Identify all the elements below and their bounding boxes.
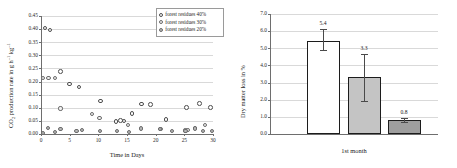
legend-label: forest residues 30%	[165, 20, 206, 25]
gridline-y	[270, 65, 438, 66]
scatter-point	[148, 102, 153, 107]
scatter-point	[46, 126, 50, 130]
y-tick-label: 7.0	[248, 11, 267, 16]
gridline-y	[270, 14, 438, 15]
x-axis-title-left: Time in Days	[41, 152, 213, 158]
y-tick-label: 1.0	[248, 114, 267, 119]
scatter-point	[77, 85, 82, 90]
legend-item: forest residues 40%	[159, 11, 220, 19]
scatter-point	[90, 112, 94, 116]
y-tick-label: 0.35	[20, 40, 38, 45]
y-tick-label: 0.45	[20, 13, 38, 18]
scatter-point	[170, 129, 174, 133]
error-bar-cap	[320, 29, 327, 30]
y-tick-mark	[268, 134, 270, 135]
bar-value-label: 0.8	[394, 110, 414, 116]
scatter-point	[46, 76, 50, 80]
legend-item: forest residues 30%	[159, 19, 220, 27]
y-tick-label: 5.0	[248, 46, 267, 51]
error-bar-cap	[401, 118, 408, 119]
scatter-point	[41, 76, 45, 80]
error-bar-cap	[361, 101, 368, 102]
y-tick-label: 0.20	[20, 79, 38, 84]
y-tick-mark	[268, 65, 270, 66]
scatter-point	[53, 76, 57, 80]
scatter-point	[67, 82, 72, 87]
y-tick-label: 0.15	[20, 92, 38, 97]
y-tick-mark	[39, 16, 41, 17]
x-tick-label: 30	[205, 138, 221, 143]
y-tick-label: 0.00	[20, 131, 38, 136]
scatter-point	[58, 127, 62, 131]
x-tick-label: 10	[90, 138, 106, 143]
x-tick-mark	[184, 134, 185, 136]
scatter-point	[208, 105, 213, 110]
scatter-point	[197, 101, 202, 106]
legend-label: forest residues 20%	[165, 27, 206, 32]
bar-value-label: 3.3	[354, 46, 374, 52]
gridline-y	[270, 31, 438, 32]
y-tick-mark	[268, 48, 270, 49]
legend-marker-open-circle-icon	[159, 13, 163, 17]
x-tick-label: 15	[119, 138, 135, 143]
error-bar-cap	[361, 54, 368, 55]
error-bar-cap	[320, 50, 327, 51]
y-tick-label: 4.0	[248, 63, 267, 68]
x-tick-label: 20	[148, 138, 164, 143]
y-tick-label: 2.0	[248, 97, 267, 102]
y-tick-label: 0.05	[20, 118, 38, 123]
error-bar-cap	[401, 122, 408, 123]
panel-co2-production-rate: CO2 production rate in g h–1 kg–1 Time i…	[0, 0, 226, 168]
x-tick-mark	[127, 134, 128, 136]
legend-label: forest residues 40%	[165, 12, 206, 17]
scatter-point	[58, 69, 63, 74]
scatter-point	[74, 129, 78, 133]
legend-marker-light-circle-icon	[159, 20, 163, 24]
y-tick-mark	[39, 121, 41, 122]
x-tick-label: 25	[176, 138, 192, 143]
x-axis-line-right	[270, 134, 438, 135]
gridline-y	[41, 121, 213, 122]
gridline-y	[41, 95, 213, 96]
y-tick-label: 0.10	[20, 105, 38, 110]
chart-legend-left: forest residues 40% forest residues 30% …	[156, 8, 224, 37]
y-axis-title-right: Dry matter loss in %	[240, 65, 246, 118]
y-tick-label: 0.40	[20, 26, 38, 31]
scatter-point	[48, 28, 53, 33]
scatter-point	[203, 123, 207, 127]
scatter-point	[126, 123, 130, 127]
scatter-point	[184, 105, 189, 110]
scatter-point	[98, 99, 103, 104]
y-tick-mark	[268, 117, 270, 118]
y-tick-mark	[268, 31, 270, 32]
error-bar	[364, 54, 365, 100]
y-tick-label: 0.30	[20, 53, 38, 58]
y-tick-mark	[39, 95, 41, 96]
x-tick-mark	[213, 134, 214, 136]
x-tick-label: 0	[33, 138, 49, 143]
scatter-point	[130, 111, 135, 116]
y-tick-mark	[39, 29, 41, 30]
scatter-point	[139, 126, 143, 130]
y-tick-mark	[268, 100, 270, 101]
y-tick-mark	[268, 14, 270, 15]
y-tick-mark	[39, 55, 41, 56]
y-tick-label: 0.0	[248, 131, 267, 136]
scatter-point	[201, 129, 205, 133]
y-axis-line-right	[270, 14, 271, 134]
scatter-point	[98, 129, 102, 133]
two-panel-figure: CO2 production rate in g h–1 kg–1 Time i…	[0, 0, 457, 168]
y-tick-label: 0.25	[20, 66, 38, 71]
x-tick-mark	[156, 134, 157, 136]
bar-value-label: 5.4	[313, 21, 333, 27]
scatter-point	[164, 117, 169, 122]
scatter-point	[97, 116, 101, 120]
y-tick-label: 3.0	[248, 80, 267, 85]
legend-item: forest residues 20%	[159, 26, 220, 34]
x-tick-label: 5	[62, 138, 78, 143]
gridline-y	[41, 42, 213, 43]
scatter-point	[139, 102, 144, 107]
scatter-point	[183, 129, 187, 133]
scatter-point	[80, 128, 84, 132]
y-tick-mark	[39, 68, 41, 69]
